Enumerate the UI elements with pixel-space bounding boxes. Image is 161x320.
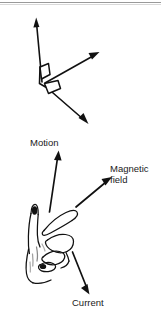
hand-thumb-inner-edge <box>37 215 40 248</box>
motion-arrow-shaft <box>50 158 58 212</box>
upper-right-axis-shaft <box>45 56 93 83</box>
hand-palm-crease-1 <box>37 247 38 261</box>
label-magnetic-field-line2: field <box>110 174 127 185</box>
label-motion: Motion <box>30 137 59 148</box>
hand-illustration <box>26 204 77 283</box>
current-arrow-shaft <box>73 252 87 287</box>
label-current: Current <box>72 297 104 308</box>
hand-wrist-line <box>33 280 51 283</box>
motion-arrow <box>50 151 62 213</box>
current-arrow <box>73 252 90 295</box>
lower-right-axis-arrowhead <box>79 113 89 124</box>
right-angle-marker-lower <box>45 81 61 94</box>
hand-palm-crease-2 <box>33 254 34 266</box>
label-magnetic-field: Magneticfield <box>110 163 149 185</box>
motion-arrow-head <box>54 151 62 161</box>
magnetic-field-arrow-shaft <box>76 182 106 207</box>
magnetic-field-arrow <box>76 177 112 207</box>
vertical-axis-arrowhead <box>33 18 39 28</box>
figure-page: Motion Magneticfield Current <box>0 0 161 320</box>
hand-thumb-outline <box>28 214 31 254</box>
physics-figure <box>0 0 161 320</box>
current-arrow-head <box>81 284 90 295</box>
hand-middle-finger-top <box>48 234 74 251</box>
hand-knuckle-ridge <box>66 253 69 262</box>
axes-diagram <box>33 18 99 125</box>
hand-thumb-nail <box>32 206 37 214</box>
right-angle-marker-upper <box>40 64 50 80</box>
hand-palm-crease-4 <box>42 244 45 251</box>
label-magnetic-field-line1: Magnetic <box>110 163 149 174</box>
hand-little-finger-nail <box>40 264 46 269</box>
